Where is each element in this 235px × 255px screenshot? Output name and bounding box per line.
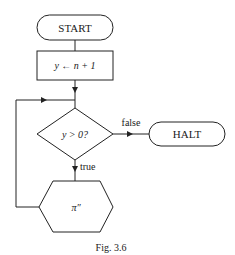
arrow-down-icon: [72, 166, 78, 172]
start-label: START: [58, 22, 92, 34]
decision-label: y > 0?: [61, 129, 88, 140]
program-label: π″: [71, 202, 81, 213]
arrow-right-icon: [41, 97, 47, 103]
true-edge-label: true: [80, 161, 96, 172]
arrow-down-icon: [72, 87, 78, 93]
flowchart: START y ← n + 1 y > 0? HALT π″ false tru…: [0, 0, 235, 255]
arrow-right-icon: [127, 131, 133, 137]
assign-label: y ← n + 1: [53, 60, 95, 71]
false-edge-label: false: [122, 117, 141, 128]
halt-label: HALT: [173, 128, 202, 140]
figure-caption: Fig. 3.6: [96, 242, 127, 253]
